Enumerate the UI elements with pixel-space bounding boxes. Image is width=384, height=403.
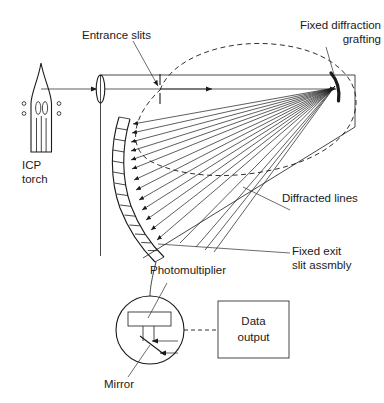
diffracted-ray-bundle [180,86,335,243]
data-output-label-line2: output [238,331,271,343]
diffracted-ray [134,88,334,180]
diagram-root: ICP torch Entrance slits [0,0,384,403]
data-output-label-line1: Data [241,315,266,327]
photomultiplier-detector [128,312,171,326]
grating-label-line1: Fixed diffraction [300,19,381,31]
rowland-circle [136,43,357,175]
data-output-group: Data output [184,301,289,358]
diffracted-ray [132,88,334,133]
data-output-box [218,301,289,358]
mirror-label: Mirror [104,378,134,390]
diffracted-rays-group: Diffracted lines [131,86,358,252]
icp-torch-label-line2: torch [22,173,48,185]
entrance-slits-label: Entrance slits [82,29,151,41]
photomultiplier-group: Photomultiplier Mirror [104,264,226,390]
diffracted-ray [133,88,334,124]
icp-torch-label-line1: ICP [22,159,42,171]
diffracted-ray [139,88,334,200]
induction-coil-dot [22,112,26,116]
exit-slit-segments [113,117,164,262]
exit-slit-inner-rail [124,119,164,257]
photomultiplier-label: Photomultiplier [150,264,226,276]
diffracted-ray [131,88,334,151]
rowland-circle-group [136,43,357,175]
diffracted-ray [157,88,334,240]
exit-slit-leader [158,244,290,253]
induction-coil-dot [57,112,61,116]
diffracted-lines-label: Diffracted lines [282,192,358,204]
exit-slit-outer-rail [112,117,155,262]
icp-torch-group: ICP torch [22,63,61,185]
entrance-slit-group: Entrance slits [82,29,160,104]
diffracted-ray [151,88,334,230]
induction-coil-dot [57,102,61,106]
grating-label-line2: grafting [343,33,381,45]
diffracted-ray [131,88,334,142]
diffracted-ray [131,88,334,160]
entrance-slit-leader [133,41,158,86]
icp-polychromator-diagram: ICP torch Entrance slits [0,0,384,403]
exit-slit-label-line2: slit assmbly [292,259,352,271]
induction-coil-dot [22,102,26,106]
diffracted-ray-bundle [196,86,335,247]
exit-slit-label-line1: Fixed exit [292,245,342,257]
photomultiplier-housing [116,296,184,364]
